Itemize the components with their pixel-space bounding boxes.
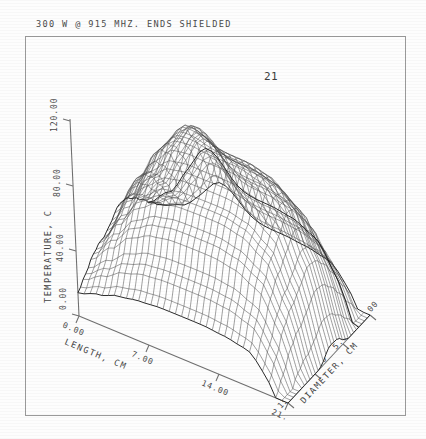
z-axis-line xyxy=(70,119,79,316)
x-tick-1: 7.00 xyxy=(130,349,155,367)
z-tick-3: 120.00 xyxy=(49,97,59,132)
z-tick-0: 0.00 xyxy=(58,287,68,310)
figure-root: 300 W @ 915 MHZ. ENDS SHIELDED 21 0.00 4… xyxy=(0,0,426,439)
x-tick-0: 0.00 xyxy=(61,320,86,338)
surface-plot: 0.00 40.00 80.00 120.00 TEMPERATURE, C 0… xyxy=(0,0,426,439)
z-tick-1: 40.00 xyxy=(55,233,65,262)
z-tick-2: 80.00 xyxy=(52,168,62,197)
x-axis-label: LENGTH, CM xyxy=(63,337,128,372)
z-axis-label: TEMPERATURE, C xyxy=(43,210,53,303)
x-tick-2: 14.00 xyxy=(200,378,231,398)
